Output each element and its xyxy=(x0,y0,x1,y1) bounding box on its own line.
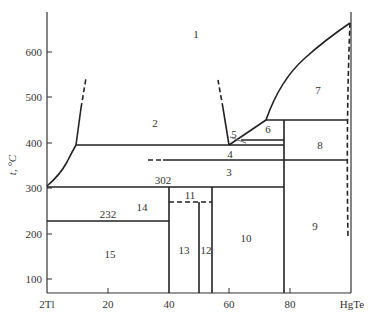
y-tick-label: 400 xyxy=(26,137,43,149)
region-label-7: 7 xyxy=(315,84,321,96)
isotherm-label-232: 232 xyxy=(100,208,117,220)
x-tick-label: 80 xyxy=(285,298,297,310)
region-label-6: 6 xyxy=(265,123,271,135)
x-tick-labels: 2Tl 20 40 60 80 HgTe xyxy=(39,298,364,310)
y-tick-label: 600 xyxy=(26,46,43,58)
x-tick-label: HgTe xyxy=(340,298,364,310)
region-label-9: 9 xyxy=(312,220,318,232)
miscibility-right-solid xyxy=(223,108,229,145)
isotherm-labels: 302 232 xyxy=(100,174,172,220)
region-label-15: 15 xyxy=(105,248,117,260)
liquidus-left xyxy=(47,145,76,186)
region-label-8: 8 xyxy=(317,139,323,151)
y-tick-labels: 600 500 400 300 200 100 xyxy=(26,46,43,285)
region-labels: 1 2 3 4 5 6 7 8 9 10 11 12 13 14 15 xyxy=(105,28,324,260)
x-tick-label: 40 xyxy=(164,298,176,310)
miscibility-left-dashed xyxy=(81,78,86,108)
region-label-5: 5 xyxy=(231,128,237,140)
y-tick-label: 500 xyxy=(26,91,43,103)
region-label-1: 1 xyxy=(193,28,199,40)
region-label-11: 11 xyxy=(185,189,196,201)
y-tick-label: 300 xyxy=(26,182,43,194)
region-label-12: 12 xyxy=(201,244,212,256)
liquidus-right xyxy=(266,23,350,120)
region-label-3: 3 xyxy=(226,166,232,178)
region-label-10: 10 xyxy=(241,232,253,244)
region-label-13: 13 xyxy=(179,244,191,256)
region-label-4: 4 xyxy=(227,148,233,160)
region-label-14: 14 xyxy=(137,201,149,213)
miscibility-left-solid xyxy=(76,108,81,145)
x-tick-label: 20 xyxy=(103,298,115,310)
y-tick-label: 100 xyxy=(26,273,43,285)
x-tick-label: 2Tl xyxy=(39,298,54,310)
solvus-hgte-dashed xyxy=(347,23,350,238)
phase-boundaries xyxy=(47,23,350,293)
region-label-2: 2 xyxy=(152,117,158,129)
miscibility-right-dashed xyxy=(218,80,223,108)
isotherm-label-302: 302 xyxy=(155,174,172,186)
x-tick-label: 60 xyxy=(224,298,236,310)
y-axis-title: t, °C xyxy=(6,154,18,175)
phase-diagram: 600 500 400 300 200 100 t, °C 2Tl 20 40 … xyxy=(0,0,370,320)
y-tick-label: 200 xyxy=(26,228,43,240)
